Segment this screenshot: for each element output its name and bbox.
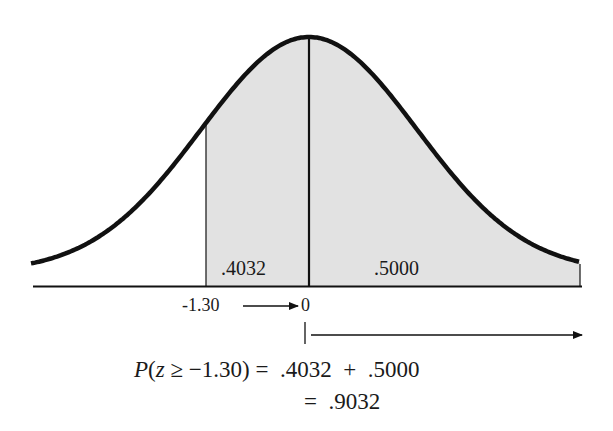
eq-line1-rhs: = .4032 + .5000: [255, 357, 419, 382]
eq-open: (: [148, 357, 156, 382]
equation-line-2: = .9032: [304, 389, 380, 415]
eq-var: z: [156, 357, 165, 382]
tick-label-zero: 0: [301, 295, 310, 316]
tick-label-z: -1.30: [182, 295, 220, 316]
eq-p: P: [134, 357, 148, 382]
eq-rel: ≥ −1.30): [165, 357, 256, 382]
area-label-right: .5000: [374, 257, 419, 280]
shaded-area: [206, 37, 580, 287]
equation-line-1: P(z ≥ −1.30) = .4032 + .5000: [134, 357, 419, 383]
area-label-left: .4032: [221, 257, 266, 280]
normal-curve-figure: .4032 .5000 -1.30 0 P(z ≥ −1.30) = .4032…: [0, 0, 613, 431]
